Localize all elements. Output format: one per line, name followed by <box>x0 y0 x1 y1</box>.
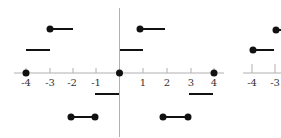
tick-label: 3 <box>188 77 194 88</box>
tick-label: -4 <box>21 77 31 88</box>
dot-0-0 <box>116 70 123 77</box>
tick-label: -2 <box>67 77 77 88</box>
tick-label: -3 <box>45 77 55 88</box>
dot-1-2 <box>137 26 144 33</box>
step-function-figure: -4 -3 -2 -1 1 2 3 4 <box>0 0 281 138</box>
dot-2-neg2 <box>160 114 167 121</box>
dot-neg4-0 <box>23 70 30 77</box>
main-chart: -4 -3 -2 -1 1 2 3 4 <box>14 8 224 137</box>
tick-label: -3 <box>270 77 280 88</box>
tick-label: 4 <box>211 77 217 88</box>
tick-label: 1 <box>140 77 146 88</box>
tick-label: 2 <box>164 77 170 88</box>
dot-neg1-neg2 <box>92 114 99 121</box>
dot-3-neg2 <box>185 114 192 121</box>
tick-label: -4 <box>247 77 257 88</box>
dot-neg3-2 <box>47 26 54 33</box>
partial-right-chart: -4 -3 <box>243 27 281 89</box>
tick-label: -1 <box>91 77 101 88</box>
dot-neg2-neg2 <box>68 114 75 121</box>
dot-4-0 <box>211 70 218 77</box>
